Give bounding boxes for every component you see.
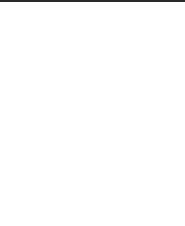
top-rule (0, 0, 185, 2)
